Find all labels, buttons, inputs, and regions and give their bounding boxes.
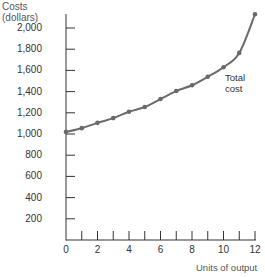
y-tick-label: 2,000 (2, 22, 42, 33)
data-point-marker (221, 65, 226, 70)
y-tick-label: 1,200 (2, 107, 42, 118)
data-point-marker (253, 12, 258, 17)
data-point-marker (142, 105, 147, 110)
x-tick-label: 2 (88, 244, 108, 255)
data-point-marker (158, 97, 163, 102)
x-tick-label: 10 (214, 244, 234, 255)
x-tick-label: 6 (151, 244, 171, 255)
y-tick-label: 1,600 (2, 64, 42, 75)
y-tick-label: 600 (2, 170, 42, 181)
y-tick-label: 400 (2, 192, 42, 203)
data-point-marker (95, 121, 100, 126)
data-point-marker (237, 51, 242, 56)
x-tick-label: 0 (56, 244, 76, 255)
y-tick-label: 200 (2, 213, 42, 224)
y-tick-label: 1,400 (2, 86, 42, 97)
x-tick-label: 8 (182, 244, 202, 255)
y-tick-label: 1,000 (2, 128, 42, 139)
series-label-total-cost: Total cost (225, 72, 265, 94)
y-tick-label: 1,800 (2, 43, 42, 54)
data-point-marker (205, 74, 210, 79)
x-tick-label: 12 (245, 244, 265, 255)
y-tick-label: 800 (2, 149, 42, 160)
data-point-marker (111, 116, 116, 121)
x-axis-label: Units of output (196, 262, 257, 273)
data-point-marker (127, 109, 132, 114)
x-tick-label: 4 (119, 244, 139, 255)
data-point-marker (174, 89, 179, 94)
data-point-marker (190, 83, 195, 88)
data-point-marker (79, 126, 84, 131)
data-point-marker (64, 130, 69, 135)
